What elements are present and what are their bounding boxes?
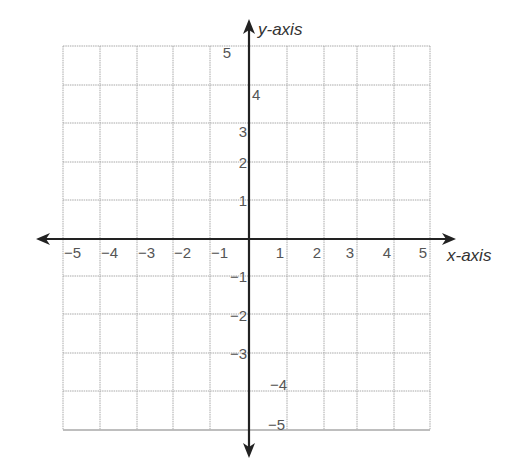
y-tick-label: 5 — [223, 44, 231, 61]
y-tick-label: −1 — [230, 268, 247, 285]
x-tick-label: 2 — [313, 244, 321, 261]
y-tick-label: −4 — [270, 376, 287, 393]
x-tick-label: −5 — [64, 244, 81, 261]
coordinate-plane: −5−4−3−2−11234554321−1−2−3−4−5 y-axis x-… — [0, 0, 526, 473]
x-tick-label: 1 — [276, 244, 284, 261]
x-tick-label: −4 — [101, 244, 118, 261]
y-tick-label: −3 — [230, 345, 247, 362]
y-axis-title: y-axis — [257, 20, 303, 39]
y-tick-label: −5 — [268, 416, 285, 433]
x-tick-label: 4 — [383, 244, 391, 261]
x-axis-title: x-axis — [446, 246, 492, 265]
y-tick-label: −2 — [230, 307, 247, 324]
x-tick-label: 3 — [346, 244, 354, 261]
x-tick-label: −2 — [174, 244, 191, 261]
y-tick-label: 2 — [239, 154, 247, 171]
y-tick-label: 4 — [252, 86, 260, 103]
y-tick-label: 1 — [239, 192, 247, 209]
x-tick-label: −3 — [138, 244, 155, 261]
x-tick-label: 5 — [419, 244, 427, 261]
y-tick-label: 3 — [239, 123, 247, 140]
x-tick-label: −1 — [211, 244, 228, 261]
